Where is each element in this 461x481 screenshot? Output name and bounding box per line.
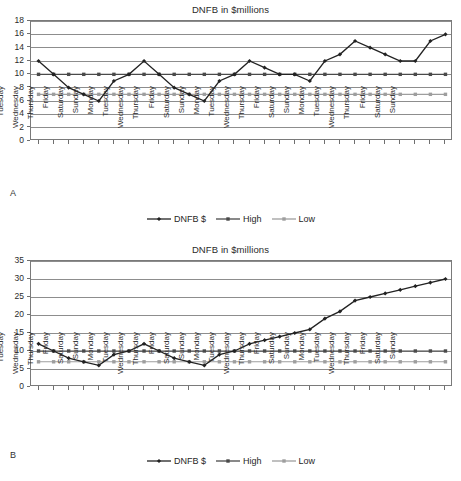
x-axis-tick-label: Thursday [26, 332, 35, 392]
x-axis-tick [399, 140, 400, 144]
x-axis-tick [324, 386, 325, 390]
legend-label: High [243, 215, 262, 224]
x-axis-tick-label: Sunday [282, 86, 291, 146]
x-axis-tick [339, 386, 340, 390]
x-axis-tick [218, 140, 219, 144]
x-axis-tick-label: Tuesday [101, 86, 110, 146]
x-axis-tick-label: Saturday [373, 86, 382, 146]
x-axis-tick [279, 140, 280, 144]
x-axis-tick [98, 386, 99, 390]
x-axis-tick [158, 140, 159, 144]
x-axis-tick-label: Tuesday [0, 332, 5, 392]
x-axis-tick-label: Tuesday [312, 332, 321, 392]
x-axis-tick [249, 140, 250, 144]
x-axis-tick [429, 140, 430, 144]
x-axis-tick [143, 386, 144, 390]
legend-label: DNFB $ [174, 215, 206, 224]
x-axis-tick [279, 386, 280, 390]
legend-marker-icon [146, 214, 172, 224]
x-axis-tick-label: Sunday [282, 332, 291, 392]
x-axis-tick [354, 386, 355, 390]
x-axis-tick [324, 140, 325, 144]
x-axis-tick [128, 386, 129, 390]
chart-panel-a: DNFB in $millions 024681012141618 Monday… [0, 0, 461, 240]
x-axis-tick-label: Wednesday [11, 332, 20, 392]
x-axis-tick [233, 386, 234, 390]
x-axis-tick-label: Tuesday [101, 332, 110, 392]
x-axis-tick-label: Tuesday [0, 86, 5, 146]
x-axis-tick-label: Friday [252, 86, 261, 146]
x-axis-tick-label: Tuesday [312, 86, 321, 146]
x-axis-tick-label: Thursday [237, 332, 246, 392]
x-axis-tick-label: Sunday [177, 332, 186, 392]
x-axis-tick-label: Thursday [26, 86, 35, 146]
x-axis-tick [414, 386, 415, 390]
x-axis-b: MondayTuesdayWednesdayThursdayFridaySatu… [0, 240, 461, 481]
x-axis-tick [249, 386, 250, 390]
x-axis-tick [68, 140, 69, 144]
x-axis-tick [264, 140, 265, 144]
x-axis-tick [218, 386, 219, 390]
legend-item: High [215, 214, 262, 224]
legend-label: DNFB $ [174, 457, 206, 466]
x-axis-tick-label: Saturday [162, 332, 171, 392]
x-axis-tick-label: Sunday [388, 86, 397, 146]
x-axis-tick-label: Wednesday [327, 332, 336, 392]
legend-marker-icon [215, 456, 241, 466]
chart-panel-b: DNFB in $millions 05101520253035 MondayT… [0, 240, 461, 481]
x-axis-tick [414, 140, 415, 144]
x-axis-tick-label: Wednesday [116, 332, 125, 392]
legend-marker-icon [271, 214, 297, 224]
x-axis-tick [233, 140, 234, 144]
x-axis-tick-label: Saturday [267, 332, 276, 392]
x-axis-tick-label: Thursday [342, 332, 351, 392]
x-axis-tick-label: Friday [147, 86, 156, 146]
legend-label: Low [299, 215, 316, 224]
x-axis-tick [429, 386, 430, 390]
x-axis-tick-label: Friday [252, 332, 261, 392]
x-axis-tick [369, 140, 370, 144]
x-axis-tick-label: Thursday [237, 86, 246, 146]
x-axis-tick [83, 386, 84, 390]
x-axis-tick [309, 140, 310, 144]
x-axis-tick [354, 140, 355, 144]
panel-letter-a: A [10, 188, 16, 198]
x-axis-tick [309, 386, 310, 390]
x-axis-tick [158, 386, 159, 390]
x-axis-tick [188, 386, 189, 390]
x-axis-tick-label: Tuesday [207, 332, 216, 392]
x-axis-tick-label: Saturday [267, 86, 276, 146]
x-axis-tick [113, 386, 114, 390]
legend-item: Low [271, 214, 316, 224]
chart-legend-a: DNFB $HighLow [0, 214, 461, 224]
x-axis-tick [38, 386, 39, 390]
legend-item: Low [271, 456, 316, 466]
x-axis-tick-label: Saturday [56, 332, 65, 392]
legend-item: DNFB $ [146, 456, 206, 466]
legend-label: High [243, 457, 262, 466]
x-axis-tick-label: Wednesday [11, 86, 20, 146]
x-axis-tick-label: Thursday [131, 86, 140, 146]
x-axis-tick-label: Monday [192, 86, 201, 146]
x-axis-tick-label: Wednesday [327, 86, 336, 146]
x-axis-tick-label: Friday [147, 332, 156, 392]
x-axis-tick [113, 140, 114, 144]
x-axis-a: MondayTuesdayWednesdayThursdayFridaySatu… [0, 0, 461, 240]
x-axis-tick-label: Thursday [342, 86, 351, 146]
x-axis-tick [173, 140, 174, 144]
x-axis-tick [294, 386, 295, 390]
x-axis-tick-label: Wednesday [222, 86, 231, 146]
legend-item: High [215, 456, 262, 466]
x-axis-tick [384, 140, 385, 144]
x-axis-tick-label: Sunday [388, 332, 397, 392]
x-axis-tick-label: Wednesday [222, 332, 231, 392]
x-axis-tick [294, 140, 295, 144]
x-axis-tick-label: Monday [297, 332, 306, 392]
x-axis-tick [384, 386, 385, 390]
x-axis-tick-label: Friday [41, 86, 50, 146]
x-axis-tick [68, 386, 69, 390]
x-axis-tick [143, 140, 144, 144]
x-axis-tick-label: Saturday [373, 332, 382, 392]
legend-label: Low [299, 457, 316, 466]
x-axis-tick [203, 140, 204, 144]
